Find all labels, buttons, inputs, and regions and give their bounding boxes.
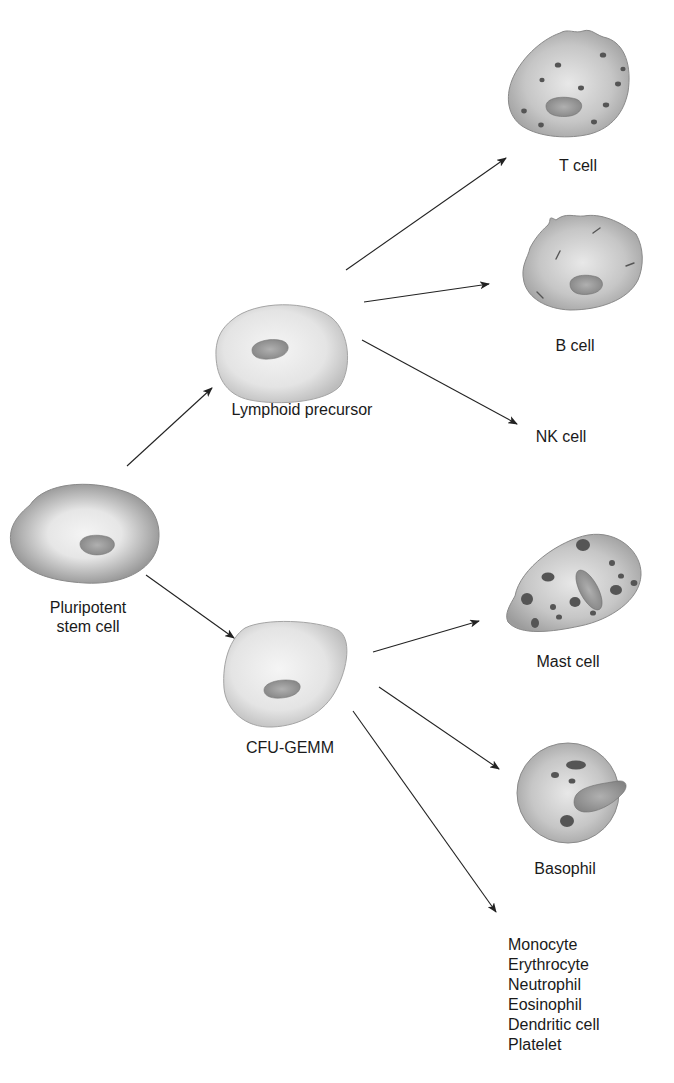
- b-cell-label: B cell: [555, 336, 594, 355]
- arrow-cfu-to-other-myeloid: [353, 711, 496, 912]
- arrow-cfu-to-basophil: [379, 687, 499, 769]
- list-item: Monocyte: [508, 935, 600, 955]
- arrow-cfu-to-mast: [373, 621, 479, 652]
- arrow-lymphoid-to-tcell: [346, 158, 506, 270]
- cfu-gemm-cell-icon: [224, 621, 347, 727]
- list-item: Neutrophil: [508, 975, 600, 995]
- basophil-icon: [517, 743, 626, 843]
- mast-cell-label: Mast cell: [536, 652, 599, 671]
- stem-cell-label-line2: stem cell: [50, 617, 127, 636]
- stem-cell-label-line1: Pluripotent: [50, 598, 127, 617]
- arrow-lymphoid-to-bcell: [364, 284, 489, 302]
- mast-cell-icon: [507, 534, 641, 631]
- list-item: Eosinophil: [508, 995, 600, 1015]
- list-item: Platelet: [508, 1035, 600, 1055]
- b-cell-icon: [523, 215, 642, 310]
- nk-cell-label: NK cell: [536, 427, 587, 446]
- basophil-label: Basophil: [534, 859, 595, 878]
- arrow-stem-to-cfu: [146, 575, 234, 638]
- lineage-arrows: [127, 158, 517, 912]
- arrow-stem-to-lymphoid: [127, 388, 212, 466]
- lymphoid-precursor-label: Lymphoid precursor: [232, 400, 373, 419]
- lymphoid-precursor-cell-icon: [216, 305, 348, 403]
- list-item: Dendritic cell: [508, 1015, 600, 1035]
- other-myeloid-list: Monocyte Erythrocyte Neutrophil Eosinoph…: [508, 935, 600, 1055]
- t-cell-label: T cell: [559, 156, 597, 175]
- stem-cell-label: Pluripotent stem cell: [50, 598, 127, 636]
- arrow-lymphoid-to-nkcell: [362, 340, 517, 424]
- stem-cell-icon: [10, 484, 159, 583]
- cfu-gemm-label: CFU-GEMM: [246, 738, 334, 757]
- t-cell-icon: [508, 30, 629, 136]
- list-item: Erythrocyte: [508, 955, 600, 975]
